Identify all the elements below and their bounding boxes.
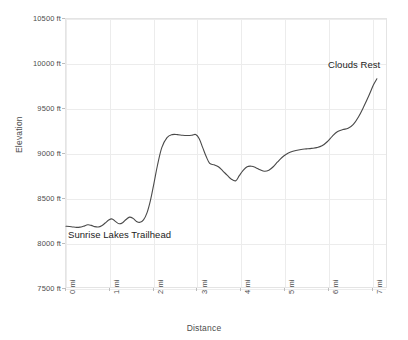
- x-axis-ticks: 0 mi1 mi2 mi3 mi4 mi5 mi6 mi7 mi: [65, 288, 387, 322]
- x-tick-label: 4 mi: [243, 279, 252, 294]
- x-tick-mark: [196, 288, 197, 291]
- x-tick-label: 3 mi: [200, 279, 209, 294]
- annotation-clouds-rest: Clouds Rest: [328, 59, 380, 70]
- x-tick-label: 0 mi: [68, 279, 77, 294]
- y-axis-ticks: 7500 ft8000 ft8500 ft9000 ft9500 ft10000…: [0, 18, 61, 288]
- y-tick-label: 7500 ft: [37, 284, 61, 293]
- elevation-profile-chart: 7500 ft8000 ft8500 ft9000 ft9500 ft10000…: [0, 0, 408, 340]
- y-axis-title: Elevation: [14, 116, 24, 153]
- x-tick-mark: [284, 288, 285, 291]
- x-tick-mark: [372, 288, 373, 291]
- y-tick-label: 10000 ft: [33, 59, 61, 68]
- annotation-sunrise-lakes-trailhead: Sunrise Lakes Trailhead: [68, 229, 171, 240]
- y-tick-label: 10500 ft: [33, 14, 61, 23]
- y-tick-label: 9500 ft: [37, 104, 61, 113]
- x-tick-label: 7 mi: [375, 279, 384, 294]
- x-tick-label: 5 mi: [287, 279, 296, 294]
- x-tick-mark: [109, 288, 110, 291]
- x-tick-mark: [240, 288, 241, 291]
- x-tick-label: 6 mi: [331, 279, 340, 294]
- x-tick-label: 1 mi: [112, 279, 121, 294]
- x-tick-label: 2 mi: [156, 279, 165, 294]
- y-tick-label: 8500 ft: [37, 194, 61, 203]
- y-tick-label: 8000 ft: [37, 239, 61, 248]
- x-tick-mark: [65, 288, 66, 291]
- y-tick-label: 9000 ft: [37, 149, 61, 158]
- x-tick-mark: [328, 288, 329, 291]
- x-axis-title: Distance: [0, 323, 408, 333]
- x-tick-mark: [153, 288, 154, 291]
